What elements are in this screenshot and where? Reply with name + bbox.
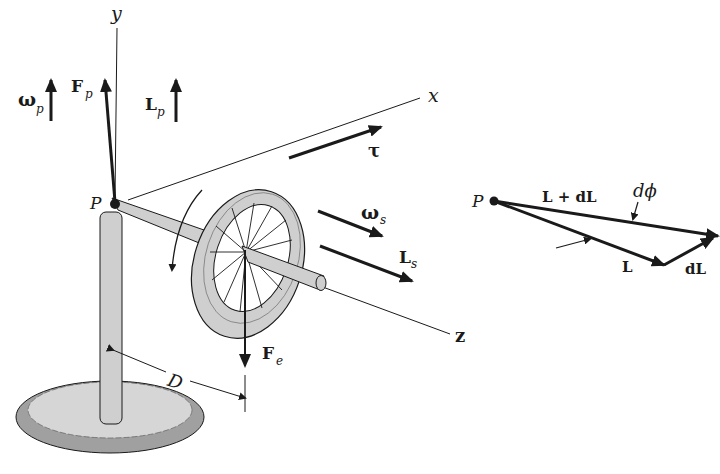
omega-s-label: ω (361, 201, 379, 223)
d-phi-pointer (633, 202, 638, 219)
dL-label: dL (685, 260, 706, 278)
gyroscope-diagram: y x z P ω p F p L p τ ω s L s F e D P L … (0, 0, 720, 474)
x-axis-label: x (428, 84, 439, 106)
omega-s-subscript: s (380, 213, 386, 227)
F-e-label: F (262, 343, 274, 363)
gyroscope-wheel (173, 175, 323, 353)
L-p-label: L (145, 94, 157, 114)
stand-post (100, 212, 122, 424)
L-plus-dL-label: L + dL (542, 188, 597, 206)
omega-p-label: ω (18, 88, 36, 110)
omega-p-subscript: p (36, 102, 44, 116)
vector-triangle (490, 197, 719, 266)
L-label: L (622, 258, 633, 276)
z-axis-label: z (455, 325, 465, 346)
y-axis (115, 28, 117, 198)
F-e-subscript: e (276, 354, 283, 368)
L-p-subscript: p (157, 105, 165, 119)
F-p-label: F (71, 76, 83, 96)
L-s-subscript: s (411, 257, 417, 271)
z-axis (320, 286, 450, 334)
L-s-label: L (399, 247, 411, 267)
angle-pointer (556, 239, 590, 248)
d-phi-label: dϕ (633, 180, 657, 201)
F-p-arrow (105, 80, 115, 202)
right-pivot-label: P (471, 191, 484, 211)
y-axis-label: y (110, 2, 122, 24)
L-vector (494, 201, 664, 265)
F-p-subscript: p (85, 87, 93, 101)
L-plus-dL-vector (494, 201, 718, 236)
pivot-label: P (89, 193, 102, 213)
tau-label: τ (368, 140, 380, 161)
